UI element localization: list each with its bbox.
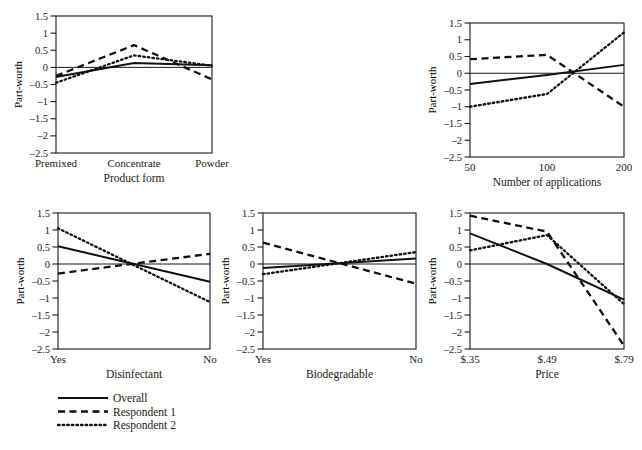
y-tick-label: 1.5: [37, 208, 50, 219]
y-tick-label: ‒1: [39, 293, 51, 304]
y-tick-label: 0.5: [449, 242, 462, 253]
y-tick-label: ‒2: [451, 327, 463, 338]
chart-panel-price: 1.510.50‒0.5‒1‒1.5‒2‒2.5Part-worth$.35$.…: [426, 208, 634, 380]
y-tick-label: ‒1.5: [29, 113, 48, 124]
x-axis-label: Price: [535, 368, 559, 380]
y-tick-label: ‒2: [37, 130, 49, 141]
y-tick-label: ‒2: [39, 327, 51, 338]
part-worth-figure: 1.510.50‒0.5‒1‒1.5‒2‒2.5Part-worthPremix…: [0, 0, 642, 450]
y-tick-label: ‒2.5: [443, 152, 462, 163]
x-tick-label: 200: [616, 161, 633, 173]
y-axis-label: Part-worth: [14, 257, 26, 305]
x-axis-label: Biodegradable: [306, 368, 373, 381]
chart-panel-product-form: 1.510.50‒0.5‒1‒1.5‒2‒2.5Part-worthPremix…: [12, 11, 229, 184]
legend: OverallRespondent 1Respondent 2: [58, 392, 176, 432]
plot-frame: [58, 213, 210, 349]
y-tick-label: ‒0.5: [29, 79, 48, 90]
y-tick-label: 1: [457, 225, 462, 236]
x-tick-label: Concentrate: [107, 157, 160, 169]
series-line-solid: [470, 233, 624, 299]
plot-frame: [56, 16, 212, 153]
chart-panel-number-of-applications: 1.510.50‒0.5‒1‒1.5‒2‒2.5Part-worth501002…: [426, 18, 633, 189]
y-tick-label: 0.5: [37, 242, 50, 253]
y-tick-label: ‒1.5: [31, 310, 50, 321]
y-tick-label: 1: [250, 225, 255, 236]
plot-frame: [470, 213, 624, 349]
y-tick-label: 1.5: [35, 11, 48, 22]
x-tick-label: Yes: [50, 353, 66, 365]
y-tick-label: 1: [43, 28, 48, 39]
y-tick-label: ‒2.5: [443, 344, 462, 355]
y-tick-label: ‒0.5: [31, 276, 50, 287]
x-tick-label: No: [409, 353, 423, 365]
y-tick-label: 1: [45, 225, 50, 236]
y-tick-label: ‒1: [451, 101, 463, 112]
y-tick-label: ‒2.5: [31, 344, 50, 355]
y-tick-label: ‒1: [451, 293, 463, 304]
x-tick-label: $.79: [614, 353, 634, 365]
y-tick-label: 0.5: [449, 51, 462, 62]
y-tick-label: 0: [45, 259, 50, 270]
x-tick-label: Powder: [195, 157, 229, 169]
legend-label: Respondent 2: [113, 419, 176, 432]
y-tick-label: ‒0.5: [236, 276, 255, 287]
x-axis-label: Number of applications: [493, 176, 602, 189]
x-tick-label: Premixed: [35, 157, 78, 169]
y-tick-label: 1.5: [449, 208, 462, 219]
y-tick-label: ‒1: [37, 96, 49, 107]
y-axis-label: Part-worth: [426, 66, 438, 114]
series-line-dotted: [263, 252, 416, 274]
y-tick-label: 0: [457, 259, 462, 270]
y-tick-label: 0.5: [35, 45, 48, 56]
y-tick-label: ‒2: [244, 327, 256, 338]
series-line-dotted: [470, 235, 624, 304]
x-axis-label: Disinfectant: [106, 368, 163, 380]
y-tick-label: 0.5: [242, 242, 255, 253]
y-tick-label: ‒1.5: [443, 310, 462, 321]
y-tick-label: 1.5: [242, 208, 255, 219]
series-line-dotted: [470, 32, 624, 106]
x-tick-label: No: [203, 353, 217, 365]
chart-panel-disinfectant: 1.510.50‒0.5‒1‒1.5‒2‒2.5Part-worthYesNoD…: [14, 208, 217, 380]
y-tick-label: 0: [43, 62, 48, 73]
y-tick-label: ‒0.5: [443, 276, 462, 287]
y-tick-label: ‒0.5: [443, 85, 462, 96]
legend-label: Respondent 1: [113, 406, 176, 419]
y-tick-label: 1.5: [449, 18, 462, 29]
y-tick-label: ‒2: [451, 135, 463, 146]
y-tick-label: 0: [250, 259, 255, 270]
x-tick-label: $.49: [537, 353, 557, 365]
y-tick-label: ‒1: [244, 293, 256, 304]
x-axis-label: Product form: [103, 172, 164, 184]
y-axis-label: Part-worth: [219, 257, 231, 305]
y-axis-label: Part-worth: [426, 257, 438, 305]
y-tick-label: ‒1.5: [443, 118, 462, 129]
series-line-dotted: [58, 228, 210, 302]
chart-panel-biodegradable: 1.510.50‒0.5‒1‒1.5‒2‒2.5Part-worthYesNoB…: [219, 208, 423, 381]
y-tick-label: 0: [457, 68, 462, 79]
legend-label: Overall: [113, 392, 147, 404]
x-tick-label: $.35: [460, 353, 480, 365]
y-axis-label: Part-worth: [12, 60, 24, 108]
y-tick-label: 1: [457, 34, 462, 45]
series-line-solid: [470, 65, 624, 84]
x-tick-label: 50: [465, 161, 477, 173]
y-tick-label: ‒2.5: [236, 344, 255, 355]
x-tick-label: Yes: [255, 353, 271, 365]
x-tick-label: 100: [539, 161, 556, 173]
y-tick-label: ‒1.5: [236, 310, 255, 321]
plot-frame: [263, 213, 416, 349]
